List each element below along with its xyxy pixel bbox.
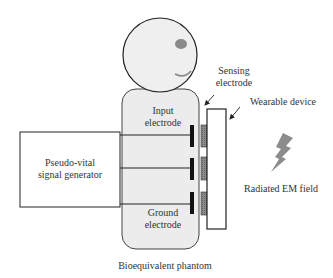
sensing-electrode-label-line2: electrode <box>208 77 260 89</box>
signal-generator-label-line2: signal generator <box>20 169 120 181</box>
wearable-device-label: Wearable device <box>243 96 323 108</box>
diagram-svg <box>0 0 333 278</box>
ground-electrode-label-line1: Ground <box>137 207 189 219</box>
wearable-device-box <box>207 109 226 229</box>
wearable-device-arrow <box>230 107 240 119</box>
input-electrode-label: Input electrode <box>138 105 188 129</box>
lightning-bolt-icon <box>271 133 293 172</box>
eye-icon <box>175 39 187 49</box>
sensing-electrode-label-line1: Sensing <box>208 65 260 77</box>
input-electrode-label-line1: Input <box>138 105 188 117</box>
sensing-electrode-arrow <box>205 95 214 105</box>
phantom-label: Bioequivalent phantom <box>110 260 220 272</box>
ground-electrode-label-line2: electrode <box>137 219 189 231</box>
signal-generator-label-line1: Pseudo-vital <box>20 157 120 169</box>
diagram-canvas: Sensing electrode Wearable device Input … <box>0 0 333 278</box>
wearable-device-label-text: Wearable device <box>250 96 316 107</box>
ground-electrode <box>190 192 194 214</box>
sensing-electrode-label: Sensing electrode <box>208 65 260 89</box>
phantom-head <box>123 18 197 92</box>
input-electrode-label-line2: electrode <box>138 117 188 129</box>
ground-electrode-label: Ground electrode <box>137 207 189 231</box>
signal-generator-label: Pseudo-vital signal generator <box>20 157 120 181</box>
middle-electrode <box>190 158 194 180</box>
sensing-pad-2 <box>201 157 207 180</box>
phantom-label-text: Bioequivalent phantom <box>118 260 212 271</box>
radiated-em-field-label-text: Radiated EM field <box>244 183 318 194</box>
sensing-pad-3 <box>201 192 207 215</box>
radiated-em-field-label: Radiated EM field <box>236 183 326 195</box>
sensing-pad-1 <box>201 125 207 147</box>
input-electrode <box>190 125 194 147</box>
